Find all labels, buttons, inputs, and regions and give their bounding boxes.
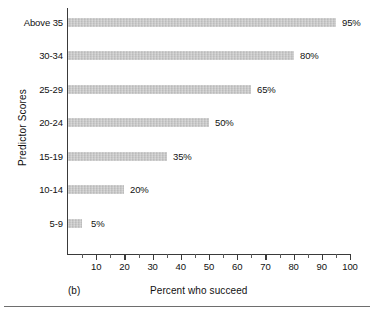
bar-above-35 [68, 18, 336, 27]
bar-30-34 [68, 51, 294, 60]
bar-value-30-34: 80% [300, 51, 319, 60]
x-tick-label-100: 100 [342, 262, 358, 272]
bar-value-20-24: 50% [215, 118, 234, 127]
bar-20-24 [68, 118, 209, 127]
bar-value-15-19: 35% [173, 152, 192, 161]
x-tick-label-90: 90 [317, 262, 327, 272]
x-minor-tick-95 [336, 254, 337, 258]
x-major-tick-10 [96, 254, 97, 260]
x-tick-label-10: 10 [91, 262, 101, 272]
x-major-tick-100 [350, 254, 351, 260]
bar-25-29 [68, 85, 251, 94]
x-minor-tick-15 [110, 254, 111, 258]
x-major-tick-70 [265, 254, 266, 260]
y-tick-label-5-9: 5-9 [8, 219, 63, 228]
footer-divider [4, 306, 370, 307]
bar-10-14 [68, 185, 124, 194]
y-tick-label-30-34: 30-34 [8, 51, 63, 60]
x-major-tick-50 [209, 254, 210, 260]
x-major-tick-60 [237, 254, 238, 260]
x-tick-label-80: 80 [288, 262, 298, 272]
x-minor-tick-55 [223, 254, 224, 258]
bar-value-10-14: 20% [130, 185, 149, 194]
x-major-tick-80 [294, 254, 295, 260]
panel-caption: (b) [68, 285, 80, 296]
x-tick-label-60: 60 [232, 262, 242, 272]
x-minor-tick-75 [280, 254, 281, 258]
x-major-tick-30 [153, 254, 154, 260]
bar-value-5-9: 5% [91, 219, 105, 228]
x-minor-tick-85 [308, 254, 309, 258]
y-tick-label-10-14: 10-14 [8, 185, 63, 194]
figure-panel: Above 35 30-34 25-29 20-24 15-19 10-14 5… [0, 0, 374, 314]
bar-5-9 [68, 219, 82, 228]
y-tick-label-above-35: Above 35 [8, 18, 63, 27]
x-minor-tick-65 [251, 254, 252, 258]
bar-15-19 [68, 152, 167, 161]
x-tick-label-70: 70 [260, 262, 270, 272]
x-minor-tick-35 [167, 254, 168, 258]
y-axis-title: Predictor Scores [17, 73, 28, 183]
x-axis-title: Percent who succeed [150, 285, 248, 296]
x-minor-tick-45 [195, 254, 196, 258]
bar-value-25-29: 65% [257, 85, 276, 94]
x-minor-tick-25 [139, 254, 140, 258]
x-tick-label-30: 30 [147, 262, 157, 272]
x-major-tick-20 [124, 254, 125, 260]
x-tick-label-40: 40 [176, 262, 186, 272]
plot-area: 95% 80% 65% 50% 35% 20% 5% [68, 8, 350, 254]
x-major-tick-40 [181, 254, 182, 260]
x-minor-tick-5 [82, 254, 83, 258]
x-tick-label-50: 50 [204, 262, 214, 272]
x-major-tick-90 [322, 254, 323, 260]
x-tick-label-20: 20 [119, 262, 129, 272]
bar-value-above-35: 95% [342, 18, 361, 27]
